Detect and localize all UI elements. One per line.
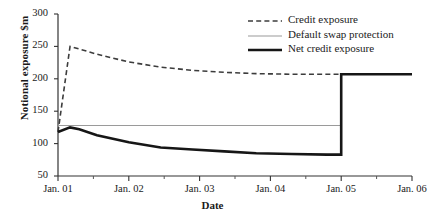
legend-item: Net credit exposure bbox=[248, 41, 394, 56]
x-axis-tick-label: Jan. 04 bbox=[240, 183, 300, 194]
chart-legend: Credit exposureDefault swap protectionNe… bbox=[248, 12, 394, 56]
y-axis-tick-label: 300 bbox=[20, 7, 48, 18]
y-axis-tick-label: 250 bbox=[20, 39, 48, 50]
series-line bbox=[58, 46, 412, 132]
x-axis-tick-label: Jan. 06 bbox=[382, 183, 432, 194]
legend-item: Credit exposure bbox=[248, 12, 394, 27]
series-line bbox=[58, 74, 412, 154]
y-axis-tick-label: 150 bbox=[20, 104, 48, 115]
legend-item: Default swap protection bbox=[248, 27, 394, 42]
legend-swatch-icon bbox=[248, 13, 282, 25]
legend-label: Credit exposure bbox=[288, 13, 358, 25]
x-axis-tick-label: Jan. 02 bbox=[99, 183, 159, 194]
y-axis-tick-label: 50 bbox=[20, 169, 48, 180]
legend-label: Net credit exposure bbox=[288, 42, 374, 54]
legend-swatch-icon bbox=[248, 28, 282, 40]
legend-label: Default swap protection bbox=[288, 28, 394, 40]
legend-swatch-icon bbox=[248, 42, 282, 54]
x-axis-tick-label: Jan. 05 bbox=[311, 183, 371, 194]
x-axis-tick-label: Jan. 03 bbox=[170, 183, 230, 194]
y-axis-tick-label: 200 bbox=[20, 72, 48, 83]
y-axis-tick-label: 100 bbox=[20, 137, 48, 148]
x-axis-tick-label: Jan. 01 bbox=[28, 183, 88, 194]
